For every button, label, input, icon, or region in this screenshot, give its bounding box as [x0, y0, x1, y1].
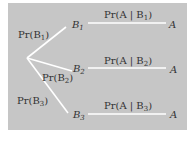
edge-label-pr-b3: Pr(B3) — [17, 96, 48, 108]
node-b3: B3 — [73, 110, 85, 122]
edge-label-pr-b2: Pr(B2) — [42, 73, 73, 85]
leaf-a-1: A — [169, 20, 176, 30]
edge-root-b2 — [27, 58, 72, 71]
node-b2: B2 — [73, 64, 85, 76]
tree-edges — [0, 0, 195, 141]
leaf-a-2: A — [170, 65, 177, 75]
cond-label-a-given-b2: Pr(A | B2) — [104, 56, 152, 68]
cond-label-a-given-b3: Pr(A | B3) — [104, 101, 152, 113]
node-b1: B1 — [72, 20, 84, 32]
cond-label-a-given-b1: Pr(A | B1) — [104, 10, 152, 22]
leaf-a-3: A — [170, 110, 177, 120]
edge-label-pr-b1: Pr(B1) — [18, 30, 49, 42]
